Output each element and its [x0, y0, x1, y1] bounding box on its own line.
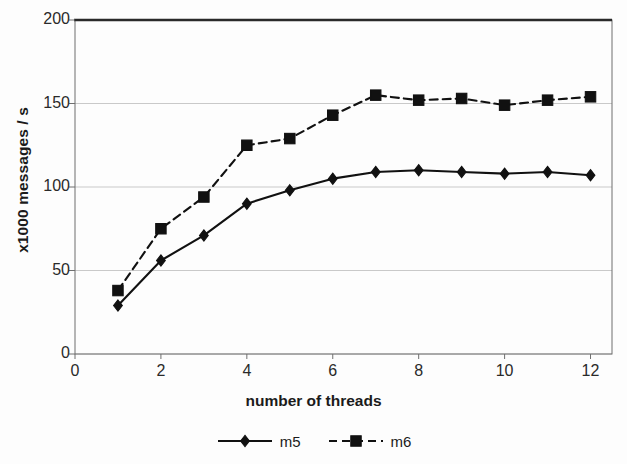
x-tick-label: 6: [313, 362, 353, 380]
legend-label: m6: [391, 433, 412, 450]
legend-label: m5: [280, 433, 301, 450]
legend-item-m6[interactable]: m6: [327, 432, 412, 450]
data-point-marker: [240, 435, 249, 446]
x-tick-label: 4: [227, 362, 267, 380]
legend-swatch-square-icon: [327, 432, 385, 450]
x-tick-label: 8: [399, 362, 439, 380]
x-tick-label: 0: [55, 362, 95, 380]
x-tick-label: 12: [571, 362, 611, 380]
x-tick-label: 10: [485, 362, 525, 380]
chart-legend: m5m6: [0, 432, 627, 450]
x-tick-label: 2: [141, 362, 181, 380]
x-axis-title: number of threads: [0, 392, 627, 410]
legend-item-m5[interactable]: m5: [216, 432, 301, 450]
line-chart: x1000 messages / s 050100150200 02468101…: [0, 0, 627, 464]
data-point-marker: [350, 436, 360, 446]
legend-swatch-diamond-icon: [216, 432, 274, 450]
